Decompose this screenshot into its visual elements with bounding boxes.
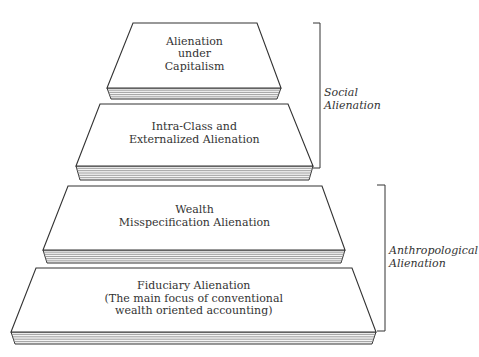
layer-text-line: Alienation [165,36,225,49]
layer-label-wealth-misspecification: Wealth Misspecification Alienation [119,204,270,229]
layer-text-line: Intra-Class and [129,121,260,134]
bracket-anthropological [377,185,385,331]
layer-text-line: wealth oriented accounting) [105,305,283,318]
layer-text-line: Capitalism [165,61,225,74]
layer-text-line: Misspecification Alienation [119,217,270,230]
bracket-text-line: Alienation [389,257,478,270]
layer-label-capitalism: Alienation under Capitalism [165,36,225,74]
bracket-social [313,23,320,168]
layer-label-fiduciary: Fiduciary Alienation (The main focus of … [105,280,283,318]
bracket-text-line: Social [324,86,381,99]
bracket-label-social: Social Alienation [324,86,381,112]
bracket-text-line: Alienation [324,99,381,112]
bracket-text-line: Anthropological [389,244,478,257]
layer-text-line: Fiduciary Alienation [105,280,283,293]
layer-text-line: Externalized Alienation [129,134,260,147]
bracket-label-anthropological: Anthropological Alienation [389,244,478,270]
layer-text-line: Wealth [119,204,270,217]
layer-label-intra-class: Intra-Class and Externalized Alienation [129,121,260,146]
